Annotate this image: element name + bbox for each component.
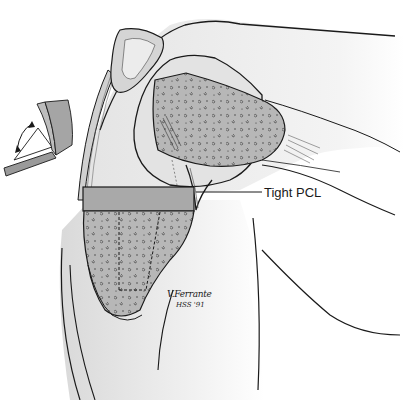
artist-affiliation-year: HSS '91 [176,301,205,309]
book-inset-icon [4,100,73,176]
knee-illustration [0,0,404,400]
arrow-head-up-icon [28,121,35,128]
artist-signature: V.Ferrante [167,289,212,299]
pcl-label: Tight PCL [264,185,321,200]
tibial-resection-block [83,187,194,211]
